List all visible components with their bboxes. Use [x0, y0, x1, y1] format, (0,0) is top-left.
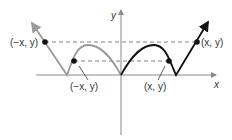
leader-inner-right: [158, 66, 165, 80]
leader-inner-left: [79, 66, 88, 80]
left-curve: [32, 23, 121, 75]
y-axis-label: y: [110, 10, 117, 21]
label-outer-left: (−x, y): [10, 37, 38, 48]
point-inner-left: [71, 58, 77, 64]
point-outer-right: [194, 39, 200, 45]
even-function-diagram: y x (−x, y) (x, y) (−x, y) (x, y): [0, 0, 232, 140]
point-outer-left: [42, 39, 48, 45]
point-inner-right: [166, 58, 172, 64]
x-axis-label: x: [213, 79, 220, 90]
label-inner-left: (−x, y): [70, 81, 98, 92]
label-outer-right: (x, y): [201, 37, 223, 48]
label-inner-right: (x, y): [144, 81, 166, 92]
